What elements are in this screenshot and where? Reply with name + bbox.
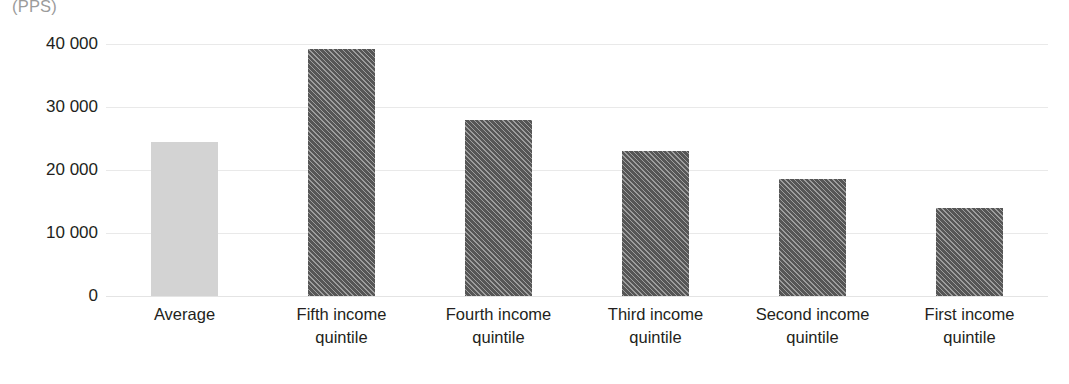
bar-chart: (PPS) 010 00020 00030 00040 000 AverageF… bbox=[0, 0, 1069, 384]
plot-area bbox=[106, 44, 1048, 296]
gridline bbox=[106, 107, 1048, 108]
y-axis-tick-label: 40 000 bbox=[6, 34, 98, 54]
gridline bbox=[106, 296, 1048, 297]
y-axis-tick-label: 0 bbox=[6, 286, 98, 306]
bar bbox=[151, 142, 218, 296]
bar bbox=[622, 151, 689, 296]
bar bbox=[465, 120, 532, 296]
y-axis-tick-labels: 010 00020 00030 00040 000 bbox=[0, 44, 98, 296]
x-axis-category-label: First incomequintile bbox=[891, 303, 1048, 349]
x-axis-category-label: Second incomequintile bbox=[734, 303, 891, 349]
bar bbox=[308, 49, 375, 296]
bar bbox=[936, 208, 1003, 296]
y-axis-tick-label: 10 000 bbox=[6, 223, 98, 243]
x-axis-category-labels: AverageFifth incomequintileFourth income… bbox=[106, 303, 1048, 373]
x-axis-category-label: Average bbox=[106, 303, 263, 326]
y-axis-tick-label: 30 000 bbox=[6, 97, 98, 117]
gridline bbox=[106, 44, 1048, 45]
y-axis-tick-label: 20 000 bbox=[6, 160, 98, 180]
gridline bbox=[106, 170, 1048, 171]
x-axis-category-label: Third incomequintile bbox=[577, 303, 734, 349]
gridline bbox=[106, 233, 1048, 234]
bar bbox=[779, 179, 846, 296]
x-axis-category-label: Fifth incomequintile bbox=[263, 303, 420, 349]
x-axis-category-label: Fourth incomequintile bbox=[420, 303, 577, 349]
y-axis-unit-label: (PPS) bbox=[12, 0, 57, 16]
